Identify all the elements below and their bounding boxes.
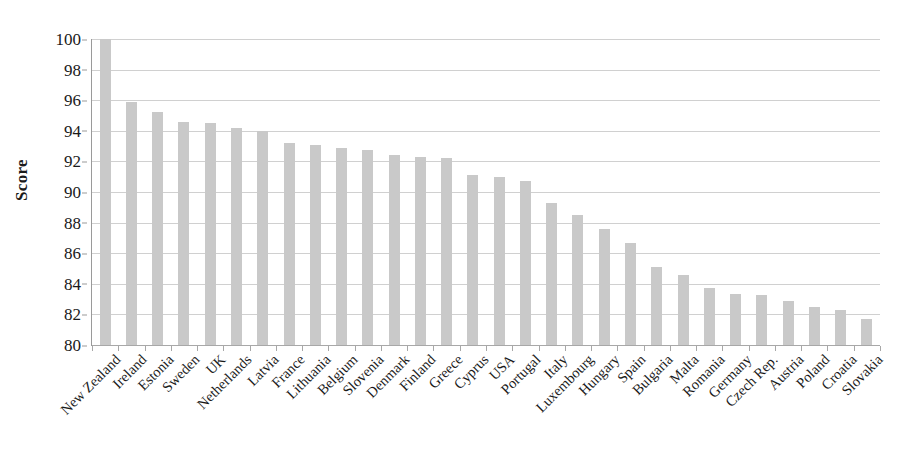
x-axis-tick bbox=[801, 346, 802, 351]
x-axis-tick bbox=[145, 346, 146, 351]
bar bbox=[599, 229, 610, 345]
bar bbox=[467, 175, 478, 345]
x-axis-tick bbox=[407, 346, 408, 351]
y-axis-tick-label: 94 bbox=[64, 122, 81, 139]
bar-series bbox=[92, 39, 880, 345]
x-axis-tick bbox=[92, 346, 93, 351]
bar bbox=[730, 294, 741, 345]
bar bbox=[205, 123, 216, 345]
bar bbox=[362, 150, 373, 345]
bar bbox=[310, 145, 321, 345]
bar bbox=[257, 131, 268, 345]
x-axis-tick bbox=[722, 346, 723, 351]
bar bbox=[336, 148, 347, 345]
bar bbox=[704, 288, 715, 345]
x-axis-tick bbox=[854, 346, 855, 351]
x-axis-tick bbox=[617, 346, 618, 351]
bar bbox=[178, 122, 189, 345]
y-axis-tick-label: 100 bbox=[56, 31, 82, 48]
bar bbox=[100, 39, 111, 345]
x-axis-tick bbox=[827, 346, 828, 351]
x-axis-tick bbox=[250, 346, 251, 351]
x-axis-tick bbox=[118, 346, 119, 351]
x-axis-tick bbox=[775, 346, 776, 351]
bar bbox=[861, 319, 872, 345]
bar bbox=[389, 155, 400, 345]
x-axis-tick bbox=[539, 346, 540, 351]
bar bbox=[231, 128, 242, 345]
x-axis-tick bbox=[486, 346, 487, 351]
x-axis-tick bbox=[644, 346, 645, 351]
y-axis-tick-label: 90 bbox=[64, 184, 81, 201]
x-axis-tick bbox=[460, 346, 461, 351]
bar bbox=[415, 157, 426, 345]
x-axis-tick bbox=[696, 346, 697, 351]
x-axis-tick bbox=[749, 346, 750, 351]
bar bbox=[546, 203, 557, 345]
y-axis-tick-label: 86 bbox=[64, 245, 81, 262]
bar-chart: Score 10098969492908886848280 New Zealan… bbox=[0, 0, 907, 454]
bar bbox=[572, 215, 583, 345]
bar bbox=[494, 177, 505, 345]
x-axis-tick bbox=[670, 346, 671, 351]
bar bbox=[809, 307, 820, 345]
x-axis-tick bbox=[433, 346, 434, 351]
y-axis-title: Score bbox=[0, 0, 44, 360]
bar bbox=[441, 158, 452, 345]
x-axis-tick bbox=[381, 346, 382, 351]
x-axis-tick-labels: New ZealandIrelandEstoniaSwedenUKNetherl… bbox=[92, 352, 907, 454]
y-axis-title-text: Score bbox=[12, 159, 32, 201]
y-axis-tick-label: 80 bbox=[64, 337, 81, 354]
bar bbox=[284, 143, 295, 345]
bar bbox=[520, 181, 531, 345]
x-axis-tick bbox=[328, 346, 329, 351]
x-axis-tick bbox=[197, 346, 198, 351]
x-axis-tick bbox=[591, 346, 592, 351]
bar bbox=[756, 295, 767, 345]
plot-area bbox=[92, 39, 880, 345]
y-axis-tick-label: 96 bbox=[64, 92, 81, 109]
y-axis-tick-label: 92 bbox=[64, 153, 81, 170]
bar bbox=[625, 243, 636, 346]
bar bbox=[152, 112, 163, 345]
bar bbox=[678, 275, 689, 345]
x-axis-tick bbox=[880, 346, 881, 351]
x-axis-tick bbox=[276, 346, 277, 351]
bar bbox=[651, 267, 662, 345]
y-axis-tick-label: 82 bbox=[64, 306, 81, 323]
bar bbox=[783, 301, 794, 345]
bar bbox=[835, 310, 846, 345]
x-axis-tick bbox=[171, 346, 172, 351]
bar bbox=[126, 102, 137, 345]
x-axis-tick bbox=[355, 346, 356, 351]
y-axis-tick-labels: 10098969492908886848280 bbox=[44, 39, 87, 345]
x-axis-tick bbox=[302, 346, 303, 351]
x-axis-tick bbox=[223, 346, 224, 351]
y-axis-tick-label: 98 bbox=[64, 61, 81, 78]
y-axis-tick-label: 88 bbox=[64, 214, 81, 231]
y-axis-tick-label: 84 bbox=[64, 275, 81, 292]
x-axis-tick bbox=[565, 346, 566, 351]
x-axis-tick bbox=[512, 346, 513, 351]
